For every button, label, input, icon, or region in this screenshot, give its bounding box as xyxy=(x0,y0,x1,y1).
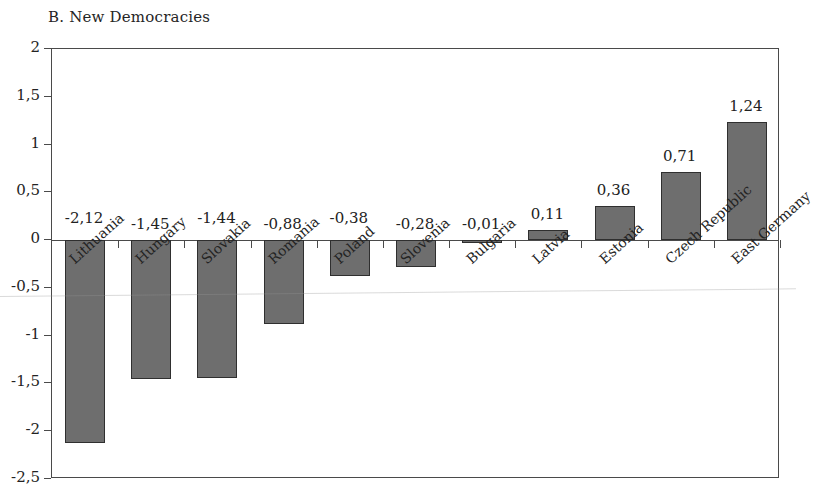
y-axis-tick xyxy=(44,430,51,431)
y-axis-tick-label: -0,5 xyxy=(0,277,40,295)
x-axis-tick xyxy=(515,240,516,248)
bar-value-label: -1,45 xyxy=(117,215,183,233)
y-axis-tick-label: 0 xyxy=(0,229,40,247)
y-axis-tick xyxy=(44,382,51,383)
y-axis-tick-label: -1,5 xyxy=(0,372,40,390)
bar-value-label: -0,28 xyxy=(382,215,448,233)
bar[interactable] xyxy=(65,240,105,443)
y-axis-tick-label: -2 xyxy=(0,420,40,438)
y-axis-tick xyxy=(44,335,51,336)
x-axis-tick xyxy=(780,240,781,248)
y-axis-tick-label: 1 xyxy=(0,134,40,152)
x-axis-tick xyxy=(317,240,318,248)
bar-value-label: -2,12 xyxy=(51,209,117,227)
chart-title: B. New Democracies xyxy=(48,8,210,26)
x-axis-tick xyxy=(118,240,119,248)
x-axis-tick xyxy=(251,240,252,248)
bar-value-label: -0,01 xyxy=(448,215,514,233)
y-axis-tick-label: 2 xyxy=(0,38,40,56)
x-axis-tick xyxy=(648,240,649,248)
x-axis-tick xyxy=(714,240,715,248)
bar-value-label: 1,24 xyxy=(713,97,779,115)
x-axis-tick xyxy=(383,240,384,248)
y-axis-tick-label: -2,5 xyxy=(0,468,40,486)
y-axis-tick-label: 0,5 xyxy=(0,181,40,199)
bar[interactable] xyxy=(727,122,767,240)
x-axis-tick xyxy=(184,240,185,248)
y-axis-tick xyxy=(44,191,51,192)
y-axis-tick-label: 1,5 xyxy=(0,86,40,104)
bar-value-label: -1,44 xyxy=(183,209,249,227)
y-axis-tick xyxy=(44,287,51,288)
y-axis-tick xyxy=(44,239,51,240)
x-axis-tick xyxy=(449,240,450,248)
bar-value-label: 0,71 xyxy=(647,147,713,165)
bar-value-label: 0,11 xyxy=(514,205,580,223)
x-axis-tick xyxy=(581,240,582,248)
y-axis-tick xyxy=(44,96,51,97)
y-axis-tick xyxy=(44,48,51,49)
y-axis-tick-label: -1 xyxy=(0,325,40,343)
y-axis-tick xyxy=(44,144,51,145)
bar-value-label: 0,36 xyxy=(580,181,646,199)
bar-value-label: -0,88 xyxy=(250,215,316,233)
y-axis-tick xyxy=(44,478,51,479)
bar-value-label: -0,38 xyxy=(316,209,382,227)
